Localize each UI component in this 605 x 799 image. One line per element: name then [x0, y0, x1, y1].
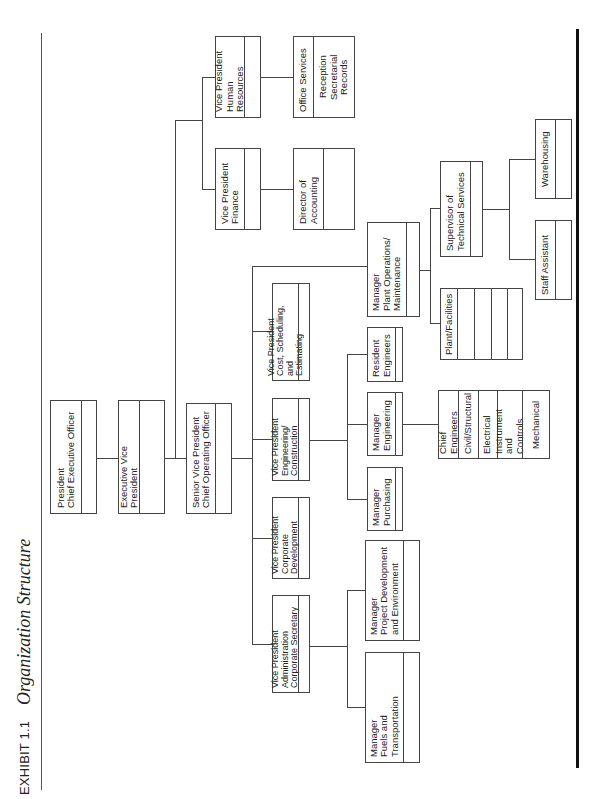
box-label: Supervisor of Technical Services: [441, 162, 470, 256]
org-box-senior-vp: Senior Vice President Chief Operating Of…: [186, 403, 232, 514]
connector: [509, 159, 510, 259]
org-box-vp-engineering-construction: Vice President Engineering/ Construction: [272, 398, 310, 481]
connector: [420, 270, 430, 271]
org-box-mgr-project-development: Manager Project Development and Environm…: [365, 540, 420, 641]
connector: [430, 208, 440, 209]
org-box-office-services: Office Services Reception Secretarial Re…: [293, 36, 355, 118]
connector: [252, 644, 272, 645]
org-box-staff-assistant: Staff Assistant: [535, 220, 572, 300]
org-box-warehousing: Warehousing: [535, 119, 572, 199]
connector: [97, 458, 118, 459]
connector: [347, 707, 365, 708]
box-divider: [474, 289, 475, 359]
box-label: Vice President Finance: [216, 149, 244, 229]
org-box-director-accounting: Director of Accounting: [293, 148, 355, 230]
chief-engineers-row: Civil/Structural: [458, 391, 478, 458]
connector: [252, 439, 272, 440]
box-divider: [215, 404, 216, 513]
box-label: Chief Engineers: [439, 391, 458, 458]
box-divider: [403, 653, 404, 762]
box-divider: [81, 401, 82, 513]
box-label: Vice President Corporate Development: [273, 498, 298, 578]
office-services-sublist: Reception Secretarial Records: [313, 37, 355, 117]
box-divider: [244, 37, 245, 117]
box-label: Resident Engineers: [368, 328, 395, 381]
connector: [347, 590, 348, 707]
box-divider: [395, 328, 396, 381]
connector: [261, 189, 293, 190]
connector: [509, 159, 535, 160]
exhibit-number: EXHIBIT 1.1: [17, 721, 32, 795]
left-margin-rule: [41, 33, 42, 790]
box-label: Executive Vice President: [119, 401, 139, 513]
box-label: Plant/Facilities: [441, 289, 457, 359]
box-divider: [457, 289, 458, 359]
org-box-mgr-purchasing: Manager Purchasing: [367, 467, 403, 531]
org-box-mgr-plant-operations: Manager Plant Operations/ Maintenance: [367, 222, 420, 317]
connector: [403, 424, 438, 425]
box-label: Vice President Human Resources: [216, 37, 244, 117]
org-box-mgr-fuels: Manager Fuels and Transportation: [365, 652, 420, 763]
exhibit-title: EXHIBIT 1.1 Organization Structure: [10, 430, 38, 795]
box-label: Manager Fuels and Transportation: [366, 653, 403, 762]
box-divider: [298, 596, 299, 692]
box-divider: [298, 498, 299, 578]
box-label: Vice President Cost, Scheduling, and Est…: [273, 284, 298, 380]
box-label: Manager Plant Operations/ Maintenance: [368, 223, 406, 316]
org-box-resident-engineers: Resident Engineers: [367, 327, 403, 382]
connector: [509, 259, 535, 260]
box-label: Manager Engineering: [368, 393, 395, 455]
connector: [261, 77, 293, 78]
connector: [347, 354, 348, 499]
box-label: Vice President Administration Corporate …: [273, 596, 298, 692]
org-box-vp-finance: Vice President Finance: [215, 148, 261, 230]
org-box-vp-administration: Vice President Administration Corporate …: [272, 595, 310, 693]
box-divider: [406, 223, 407, 316]
connector: [175, 120, 202, 121]
connector: [252, 538, 272, 539]
org-box-vp-corporate-development: Vice President Corporate Development: [272, 497, 310, 579]
box-divider: [470, 162, 471, 256]
box-label: Manager Purchasing: [368, 468, 395, 530]
connector: [483, 209, 509, 210]
connector: [202, 189, 215, 190]
exhibit-name: Organization Structure: [14, 539, 35, 705]
connector: [175, 120, 176, 458]
connector: [430, 208, 431, 323]
connector: [347, 424, 367, 425]
box-label: Warehousing: [536, 120, 555, 198]
box-label: Office Services: [294, 37, 313, 117]
box-label: Manager Project Development and Environm…: [366, 541, 403, 640]
connector: [252, 266, 253, 644]
connector: [202, 77, 203, 189]
connector: [347, 590, 365, 591]
org-box-supervisor-technical: Supervisor of Technical Services: [440, 161, 483, 257]
connector: [310, 440, 347, 441]
box-label: Staff Assistant: [536, 221, 555, 299]
connector: [347, 499, 367, 500]
chief-engineers-row: Mechanical: [522, 391, 550, 458]
box-divider: [395, 393, 396, 455]
box-label: President Chief Executive Officer: [51, 401, 81, 513]
box-label: Director of Accounting: [294, 149, 323, 229]
chief-engineers-row: Instrument and Controls: [497, 391, 522, 458]
connector: [347, 354, 367, 355]
box-label: Vice President Engineering/ Construction: [273, 399, 298, 480]
box-divider: [323, 149, 324, 229]
org-box-executive-vp: Executive Vice President: [118, 400, 165, 514]
org-box-chief-engineers: Chief Engineers Civil/Structural Electri…: [438, 390, 550, 459]
org-box-president: President Chief Executive Officer: [50, 400, 97, 514]
org-box-plant-facilities: Plant/Facilities: [440, 288, 523, 360]
connector: [310, 646, 347, 647]
box-divider: [395, 468, 396, 530]
right-margin-rule: [576, 29, 579, 768]
org-box-mgr-engineering: Manager Engineering: [367, 392, 403, 456]
connector: [165, 458, 186, 459]
box-label: Senior Vice President Chief Operating Of…: [187, 404, 215, 513]
box-divider: [298, 284, 299, 380]
connector: [430, 323, 440, 324]
box-divider: [491, 289, 492, 359]
box-divider: [244, 149, 245, 229]
box-divider: [555, 221, 556, 299]
org-box-vp-human-resources: Vice President Human Resources: [215, 36, 261, 118]
